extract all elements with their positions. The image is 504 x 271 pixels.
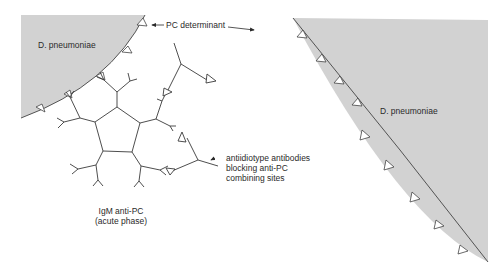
antiidiotype-label-line3: combining sites	[226, 173, 310, 183]
pc-determinant-label: PC determinant	[166, 20, 225, 30]
igm-label: IgM anti-PC (acute phase)	[86, 206, 156, 226]
antiidiotype-label-line2: blocking anti-PC	[226, 163, 310, 173]
antiidiotype-antibody-top	[163, 43, 216, 96]
left-cell-label: D. pneumoniae	[38, 40, 96, 50]
igm-label-line2: (acute phase)	[86, 216, 156, 226]
antiidiotype-label: antiidiotype antibodies blocking anti-PC…	[226, 153, 310, 183]
right-cell-label: D. pneumoniae	[380, 106, 438, 116]
igm-label-line1: IgM anti-PC	[86, 206, 156, 216]
diagram-canvas: D. pneumoniae D. pneumoniae PC determina…	[0, 0, 504, 271]
antiidiotype-antibody-lower	[166, 132, 218, 175]
left-bacterium-cell	[21, 15, 145, 118]
antiidiotype-label-line1: antiidiotype antibodies	[226, 153, 310, 163]
